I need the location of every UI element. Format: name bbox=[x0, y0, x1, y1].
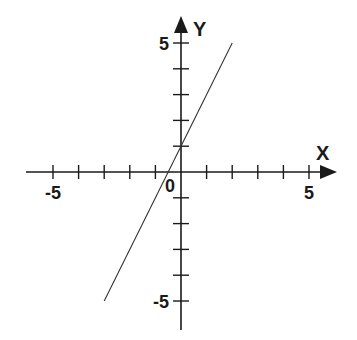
x-axis-label: X bbox=[316, 142, 330, 164]
x-tick-label: 5 bbox=[304, 183, 314, 203]
tick-labels: -5055-5 bbox=[45, 34, 314, 312]
y-axis-arrow-icon bbox=[174, 16, 188, 33]
axes bbox=[26, 16, 337, 330]
x-axis-arrow-icon bbox=[320, 165, 337, 179]
y-tick-label: 5 bbox=[159, 34, 169, 54]
coordinate-plane: X Y -5055-5 bbox=[0, 0, 357, 340]
x-tick-label: -5 bbox=[45, 183, 61, 203]
y-axis-label: Y bbox=[193, 18, 207, 40]
y-tick-label: -5 bbox=[153, 292, 169, 312]
x-tick-label: 0 bbox=[165, 176, 175, 196]
